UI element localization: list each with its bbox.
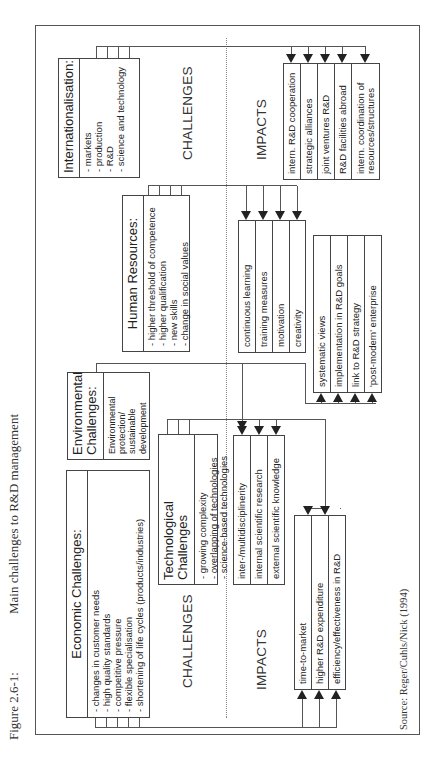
connector: [308, 47, 309, 54]
connector: [340, 508, 341, 509]
rotated-figure: Figure 2.6-1: Main challenges to R&D man…: [0, 0, 440, 764]
connector: [280, 186, 281, 211]
arrow-left-icon: [303, 54, 313, 63]
arrow-left-icon: [337, 54, 347, 63]
connector: [167, 419, 325, 420]
figure-number: Figure 2.6-1:: [6, 672, 22, 740]
figure-source: Source: Reger/Cuhls/Nick (1994): [398, 589, 409, 730]
list-item: link to R&D strategy: [348, 236, 365, 392]
connector: [325, 47, 326, 54]
connector: [302, 698, 303, 728]
connector: [336, 698, 337, 728]
economic-challenges-title: Economic Challenges:: [67, 471, 88, 717]
figure-title: Main challenges to R&D management: [6, 414, 22, 614]
internationalisation-list: - markets - production - R&D - science a…: [80, 59, 130, 177]
connector: [305, 363, 306, 404]
arrow-left-icon: [275, 211, 285, 220]
connector: [148, 186, 149, 195]
internationalisation-title: Internationalisation:: [59, 59, 80, 177]
connector: [96, 363, 305, 364]
technological-challenges-box: Technological Challenges - growing compl…: [158, 434, 218, 585]
environmental-challenges-title: Environmental Challenges:: [68, 373, 104, 459]
list-item: time-to-market: [295, 516, 312, 689]
connector: [159, 186, 160, 195]
arrow-right-icon: [333, 393, 343, 402]
list-item: R&D facilities abroad: [335, 64, 352, 179]
list-item: joint ventures R&D: [318, 64, 335, 179]
list-item: continuous learning: [239, 221, 256, 352]
arrow-left-icon: [258, 211, 268, 220]
connector: [96, 47, 97, 58]
list-item: Environmental: [107, 378, 117, 454]
list-item: - science and technology: [116, 64, 127, 172]
connector: [263, 186, 264, 211]
arrow-left-icon: [241, 211, 251, 220]
list-item: 'post-modern' enterprise: [365, 236, 381, 392]
challenges-impacts-divider: [226, 38, 227, 718]
connector: [181, 186, 182, 195]
connector: [242, 363, 243, 424]
economic-challenges-box: Economic Challenges: - changes in custom…: [66, 470, 150, 718]
list-item: - growing complexity: [198, 440, 209, 579]
arrow-left-icon: [320, 506, 330, 515]
list-item: - shortening of life cycles (products/in…: [135, 476, 146, 712]
list-item: - science-based technologies: [219, 440, 230, 579]
arrow-right-icon: [350, 393, 360, 402]
connector: [305, 403, 376, 404]
connector: [365, 47, 366, 54]
connector: [167, 420, 168, 434]
connector: [129, 47, 130, 58]
arrow-left-icon: [237, 421, 247, 430]
arrow-right-icon: [331, 690, 341, 699]
challenges-label-right: CHALLENGES: [180, 66, 195, 160]
connector: [107, 47, 108, 58]
list-item: inter-/multidisciplinerity: [234, 436, 251, 584]
connector: [189, 420, 190, 434]
list-item: higher R&D expenditure: [312, 516, 329, 689]
list-item: implementation in R&D goals: [331, 236, 348, 392]
economic-impacts-box: time-to-market higher R&D expenditure ef…: [294, 515, 346, 690]
connector: [148, 185, 297, 186]
list-item: systematic views: [314, 236, 331, 392]
list-item: efficiency/effectiveness in R&D: [329, 516, 345, 689]
human-resources-impacts-box: continuous learning training measures mo…: [238, 220, 306, 353]
arrow-left-icon: [320, 54, 330, 63]
technological-challenges-title: Technological Challenges: [159, 435, 195, 584]
arrow-left-icon: [360, 54, 370, 63]
human-resources-list: - higher threshold of competence - highe…: [144, 196, 194, 351]
impacts-label-right: IMPACTS: [254, 99, 269, 160]
list-item: creativity: [290, 221, 305, 352]
connector: [170, 186, 171, 195]
arrow-right-icon: [367, 393, 377, 402]
arrow-left-icon: [292, 211, 302, 220]
list-item: training measures: [256, 221, 273, 352]
connector: [246, 186, 247, 211]
human-resources-box: Human Resources: - higher threshold of c…: [122, 195, 190, 352]
connector: [297, 186, 298, 211]
connector: [325, 419, 326, 509]
list-item: external scientific knowledge: [268, 436, 284, 584]
arrow-right-icon: [297, 690, 307, 699]
arrow-left-icon: [303, 506, 313, 515]
technological-challenges-list: - growing complexity - overlapping of te…: [195, 435, 234, 584]
internationalisation-box: Internationalisation: - markets - produc…: [58, 58, 140, 178]
connector: [118, 47, 119, 58]
environmental-challenges-box: Environmental Challenges: Environmental …: [67, 372, 150, 460]
list-item: development: [138, 378, 148, 454]
arrow-left-icon: [286, 54, 296, 63]
list-item: - change in social values: [180, 201, 191, 346]
arrow-right-icon: [316, 393, 326, 402]
list-item: motivation: [273, 221, 290, 352]
internationalisation-impacts-box: intern. R&D cooperation strategic allian…: [283, 63, 380, 180]
list-item: intern. coordination of resources/struct…: [352, 64, 379, 179]
list-item: internal scientific research: [251, 436, 268, 584]
list-item: strategic alliances: [301, 64, 318, 179]
connector: [178, 420, 179, 434]
human-resources-title: Human Resources:: [123, 196, 144, 351]
environmental-challenges-list: Environmental protection/ sustainable de…: [104, 373, 151, 459]
impacts-label-left: IMPACTS: [254, 629, 269, 690]
connector: [319, 698, 320, 728]
connector: [291, 47, 292, 54]
arrow-right-icon: [314, 690, 324, 699]
connector: [95, 727, 337, 728]
